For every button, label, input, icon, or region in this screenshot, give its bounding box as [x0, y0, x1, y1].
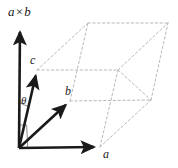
parallelepiped-edge: [100, 70, 118, 147]
parallelepiped-edge: [151, 23, 168, 100]
label-vector-a: a: [103, 147, 109, 161]
parallelepiped-edge: [118, 70, 151, 100]
label-vector-b: b: [65, 84, 71, 98]
parallelepiped-edge: [37, 23, 88, 70]
label-a-cross-b: a×b: [8, 4, 31, 19]
parallelepiped-edge: [70, 23, 88, 101]
parallelepiped-edge: [118, 23, 168, 70]
parallelepiped-edge: [100, 100, 151, 147]
vector-a×b-axis: [19, 32, 20, 148]
vector-diagram-figure: a×b c b a θ: [0, 0, 178, 168]
vector-a-axis: [19, 147, 94, 148]
vector-b-vector: [19, 105, 66, 148]
label-vector-c: c: [30, 53, 36, 67]
solid-vectors-group: [19, 32, 94, 148]
diagram-canvas: a×b c b a θ: [0, 0, 178, 168]
label-angle-theta: θ: [21, 94, 27, 106]
parallelepiped-dashed-edges: [37, 23, 168, 147]
